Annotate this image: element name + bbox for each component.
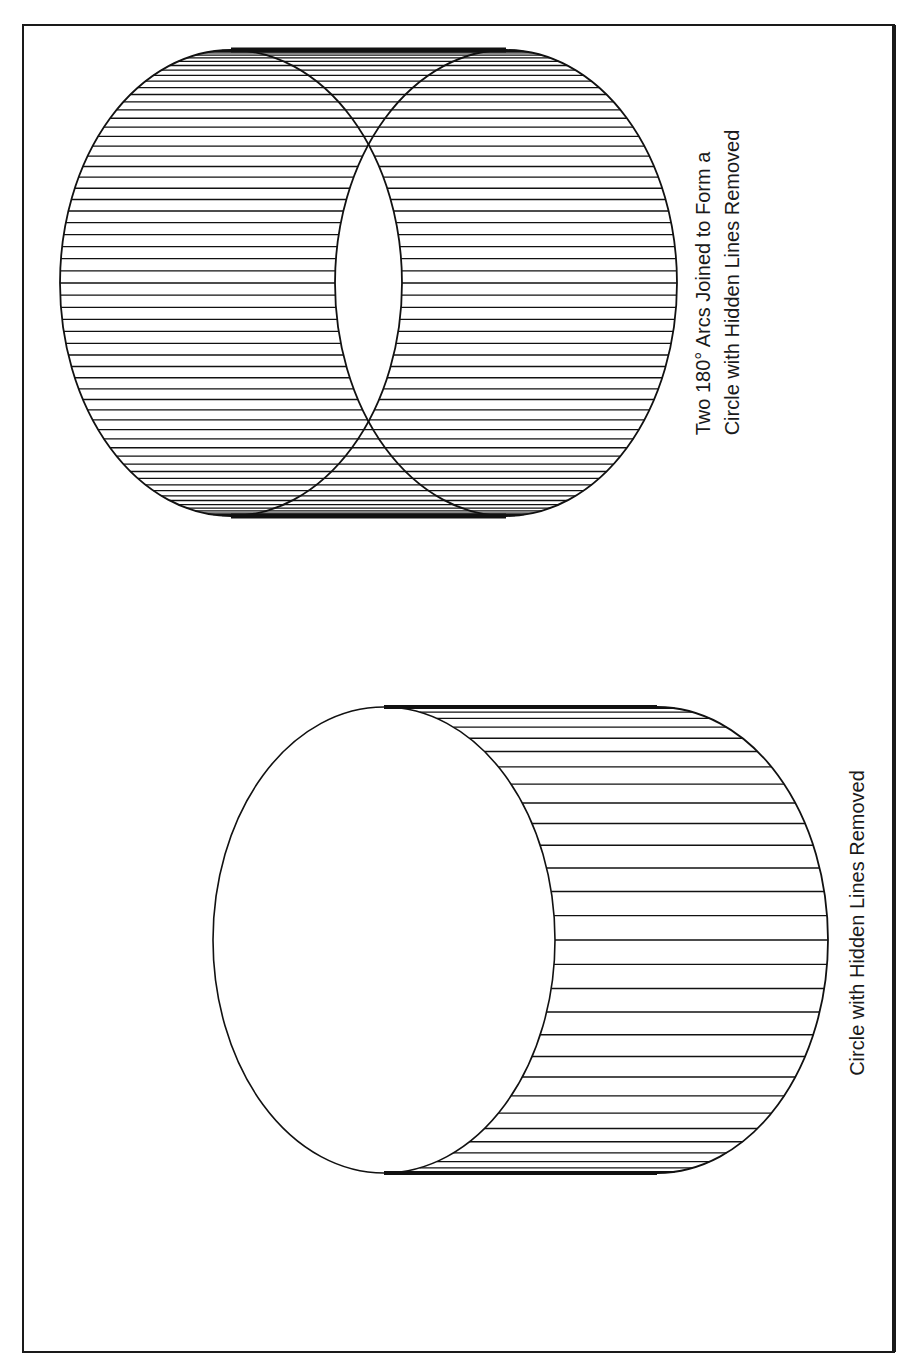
- ring-label-line-1: Two 180° Arcs Joined to Form a: [693, 129, 713, 435]
- ring-label-line-2: Circle with Hidden Lines Removed: [722, 129, 742, 435]
- drum-diagram: [213, 707, 828, 1173]
- drum-diagram-label: Circle with Hidden Lines Removed: [847, 770, 867, 1076]
- drum-face-ellipse: [213, 707, 555, 1173]
- diagram-svg: [0, 0, 911, 1368]
- ring-diagram: [60, 50, 677, 516]
- drum-label-text: Circle with Hidden Lines Removed: [847, 770, 867, 1076]
- ring-diagram-label: Two 180° Arcs Joined to Form a Circle wi…: [693, 129, 742, 435]
- figure-canvas: Two 180° Arcs Joined to Form a Circle wi…: [0, 0, 911, 1368]
